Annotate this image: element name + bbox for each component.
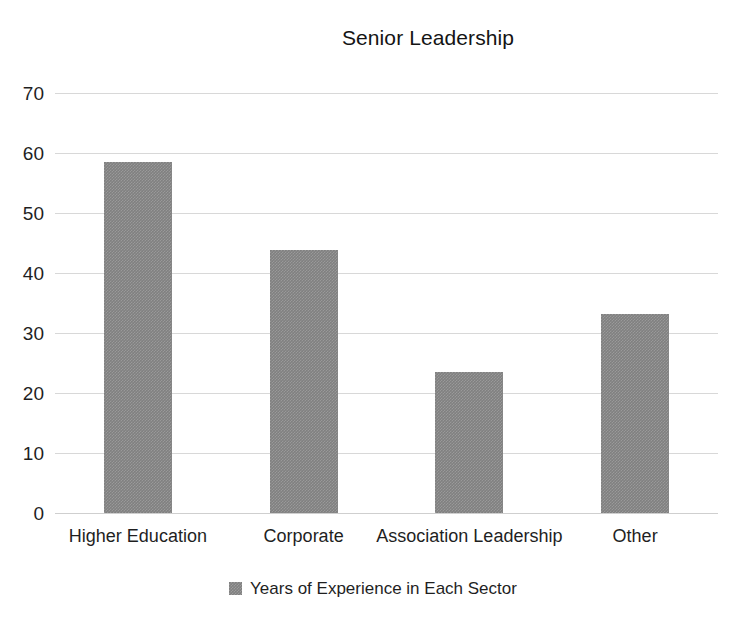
x-axis-category-label: Other	[613, 527, 658, 545]
y-axis-tick-label: 30	[23, 324, 44, 343]
bar	[435, 372, 503, 513]
plot-area: 010203040506070Higher EducationCorporate…	[55, 93, 718, 513]
x-axis-category-label: Higher Education	[69, 527, 207, 545]
x-axis-category-label: Corporate	[264, 527, 344, 545]
gridline-60: 60	[55, 153, 718, 154]
legend-swatch-icon	[229, 582, 242, 595]
y-axis-tick-label: 70	[23, 84, 44, 103]
bar-chart: Senior Leadership 010203040506070Higher …	[0, 0, 736, 627]
y-axis-tick-label: 20	[23, 384, 44, 403]
gridline-70: 70	[55, 93, 718, 94]
y-axis-tick-label: 40	[23, 264, 44, 283]
y-axis-tick-label: 60	[23, 144, 44, 163]
y-axis-tick-label: 10	[23, 444, 44, 463]
x-axis-category-label: Association Leadership	[376, 527, 562, 545]
y-axis-tick-label: 50	[23, 204, 44, 223]
bar	[601, 314, 669, 513]
gridline-0: 0	[55, 513, 718, 514]
legend-label: Years of Experience in Each Sector	[250, 580, 517, 597]
y-axis-tick-label: 0	[33, 504, 44, 523]
bar	[104, 162, 172, 513]
chart-title: Senior Leadership	[0, 26, 736, 50]
bar	[270, 250, 338, 513]
chart-legend: Years of Experience in Each Sector	[0, 580, 736, 597]
